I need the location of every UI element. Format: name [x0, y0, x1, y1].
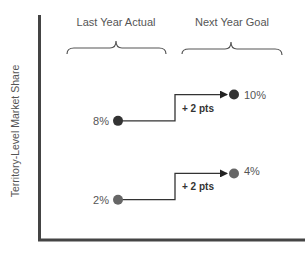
category-label-1: Next Year Goal — [195, 16, 269, 28]
point-1-last-year — [113, 195, 123, 205]
value-label-0-last-year: 8% — [93, 115, 109, 127]
category-brace-0 — [67, 41, 166, 54]
value-label-0-next-year: 10% — [244, 89, 266, 101]
category-label-0: Last Year Actual — [77, 16, 156, 28]
delta-label-0: + 2 pts — [182, 103, 214, 114]
point-1-next-year — [229, 168, 239, 178]
category-brace-1 — [182, 42, 282, 55]
point-0-last-year — [113, 116, 123, 126]
delta-label-1: + 2 pts — [182, 181, 214, 192]
value-label-1-next-year: 4% — [244, 165, 260, 177]
y-axis-label: Territory-Level Market Share — [9, 65, 21, 198]
value-label-1-last-year: 2% — [93, 194, 109, 206]
market-share-chart: Territory-Level Market Share Last Year A… — [0, 0, 305, 267]
point-0-next-year — [229, 90, 239, 100]
